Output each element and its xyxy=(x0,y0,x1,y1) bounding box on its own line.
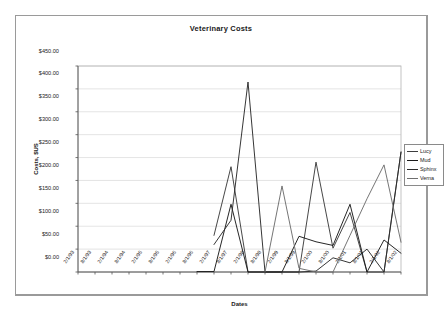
series-line-sphinx xyxy=(214,82,401,272)
legend-item-lucy[interactable]: Lucy xyxy=(407,147,441,156)
legend-item-sphinx[interactable]: Sphinx xyxy=(407,165,441,174)
series-line-verna xyxy=(265,165,401,272)
series-line-lucy xyxy=(214,152,401,272)
legend-swatch-icon xyxy=(407,160,418,161)
legend-label: Mud xyxy=(420,156,431,165)
legend: LucyMudSphinxVerna xyxy=(404,144,444,186)
chart-frame: Veterinary Costs Costs, $US Dates $0.00$… xyxy=(15,15,428,296)
legend-swatch-icon xyxy=(407,151,418,152)
legend-item-verna[interactable]: Verna xyxy=(407,174,441,183)
legend-swatch-icon xyxy=(407,178,418,179)
plot-area xyxy=(16,16,446,310)
axis-ticks xyxy=(76,66,402,275)
data-series-group xyxy=(197,82,401,272)
legend-swatch-icon xyxy=(407,169,418,170)
plot-border xyxy=(78,66,401,272)
legend-item-mud[interactable]: Mud xyxy=(407,156,441,165)
gridlines xyxy=(78,66,401,272)
legend-label: Sphinx xyxy=(420,165,436,174)
series-line-mud xyxy=(197,204,401,272)
axes xyxy=(78,66,401,272)
legend-label: Lucy xyxy=(420,147,431,156)
legend-label: Verna xyxy=(420,174,434,183)
